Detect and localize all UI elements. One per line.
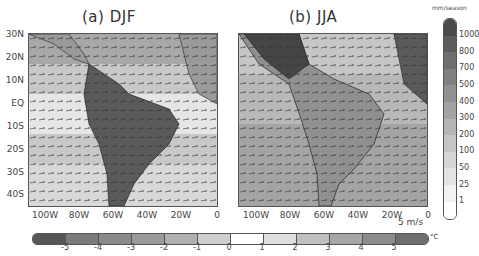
vector-reference: 5 m/s: [398, 217, 423, 227]
precip-label: 200: [459, 130, 474, 139]
precip-label: 500: [459, 80, 474, 89]
precip-label: 50: [459, 163, 469, 172]
panel-b-title: (b) JJA: [289, 8, 337, 26]
precip-label: 25: [459, 180, 469, 189]
y-label: 10N: [2, 75, 24, 85]
y-label: 40S: [2, 189, 24, 199]
temp-label: -4: [88, 243, 108, 252]
temp-label: -1: [187, 243, 207, 252]
precip-label: 700: [459, 63, 474, 72]
temp-label: 2: [285, 243, 305, 252]
y-label: EQ: [2, 98, 24, 108]
temp-label: 1: [252, 243, 272, 252]
x-label: 40W: [132, 210, 162, 220]
x-label: 80W: [275, 210, 305, 220]
temperature-unit: °C: [430, 233, 438, 241]
precip-label: 100: [459, 146, 474, 155]
temp-label: -2: [154, 243, 174, 252]
y-label: 20N: [2, 52, 24, 62]
panel-a-title: (a) DJF: [82, 8, 136, 26]
map-panel-jja: [238, 33, 428, 207]
y-label: 10S: [2, 121, 24, 131]
x-label: 100W: [30, 210, 60, 220]
y-label: 30S: [2, 167, 24, 177]
precip-colorbar: [443, 18, 457, 220]
y-label: 20S: [2, 144, 24, 154]
precip-label: 1000: [459, 30, 479, 39]
temp-label: 5: [384, 243, 404, 252]
x-label: 40W: [343, 210, 373, 220]
precip-label: 800: [459, 47, 474, 56]
x-label: 60W: [98, 210, 128, 220]
precip-label: 300: [459, 113, 474, 122]
precip-unit: mm/season: [432, 4, 467, 11]
temp-label: -5: [55, 243, 75, 252]
map-panel-djf: [28, 33, 218, 207]
x-label: 20W: [166, 210, 196, 220]
x-label: 60W: [309, 210, 339, 220]
x-label: 0: [202, 210, 232, 220]
temp-label: 4: [351, 243, 371, 252]
x-label: 80W: [64, 210, 94, 220]
precip-label: 400: [459, 97, 474, 106]
precip-label: 1: [459, 196, 464, 205]
y-label: 30N: [2, 29, 24, 39]
x-label: 100W: [241, 210, 271, 220]
temp-label: -3: [121, 243, 141, 252]
temp-label: 0: [219, 243, 239, 252]
temp-label: 3: [318, 243, 338, 252]
